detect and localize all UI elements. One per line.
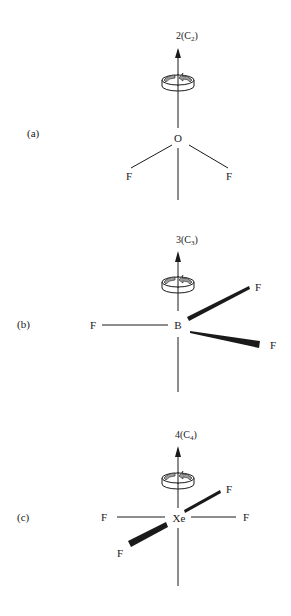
atom-f-upper-right: F <box>255 281 261 293</box>
atom-o: O <box>174 132 182 144</box>
atom-f-right: F <box>226 170 232 182</box>
axis-label-c2: 2(C2) <box>176 30 198 43</box>
wedge-bond-xe-f-lower <box>128 522 168 547</box>
panel-c-xef4: (c) 4(C4) Xe F F F F <box>17 429 249 586</box>
panel-label: (b) <box>17 318 30 331</box>
panel-a-of2: (a) 2(C2) O F F <box>27 30 232 200</box>
wedge-bond-xe-f-upper <box>184 490 221 513</box>
arrowhead-icon <box>175 446 181 457</box>
axis-label-c4: 4(C4) <box>175 429 197 442</box>
wedge-bond-b-f-upper <box>187 286 250 321</box>
panel-b-bf3: (b) 3(C3) B F F F <box>17 234 276 392</box>
atom-f-upper-right: F <box>226 483 232 495</box>
panel-label: (a) <box>27 127 40 140</box>
arrowhead-icon <box>175 48 181 58</box>
axis-label-c3: 3(C3) <box>176 234 198 247</box>
atom-f-right: F <box>243 511 249 523</box>
bond-o-f-right <box>189 145 228 168</box>
arrowhead-icon <box>175 251 181 262</box>
atom-f-lower-right: F <box>270 339 276 351</box>
wedge-bond-b-f-lower <box>190 331 260 348</box>
bond-o-f-left <box>131 145 172 168</box>
atom-f-left: F <box>90 319 96 331</box>
atom-b: B <box>174 319 181 331</box>
atom-f-lower-left: F <box>117 547 123 559</box>
symmetry-axes-figure: (a) 2(C2) O F F (b) 3(C3) <box>0 0 291 616</box>
atom-f-left: F <box>126 170 132 182</box>
atom-f-left: F <box>101 511 107 523</box>
atom-xe: Xe <box>173 512 186 524</box>
panel-label: (c) <box>17 511 30 524</box>
